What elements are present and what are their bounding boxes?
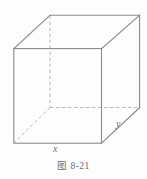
front-face-outline [14,49,102,144]
visible-edges-group [14,15,140,143]
edge-bottom-right-diagonal [102,108,140,144]
figure-caption: 图 8-21 [0,161,147,171]
dimension-label-y: y [116,119,120,129]
hidden-edge-bottom-left-diagonal [14,108,50,144]
edge-top-right-diagonal [102,15,140,48]
figure-container: x y 图 8-21 [0,0,147,179]
hidden-edges-group [14,16,140,144]
edge-top-left-diagonal [14,15,50,48]
cube-diagram [0,0,147,179]
dimension-label-x: x [53,144,57,154]
